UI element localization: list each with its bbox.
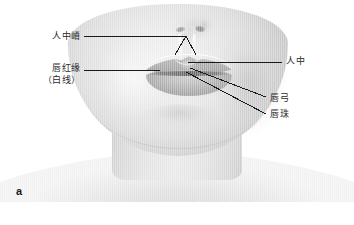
label-cupids-bow: 唇弓 — [270, 92, 330, 104]
panel-letter: a — [16, 185, 22, 197]
label-tubercle: 唇珠 — [270, 108, 330, 120]
label-vermilion-border-line1: 唇红缘 — [27, 62, 81, 74]
label-philtral-ridge: 人中嵴 — [33, 30, 81, 42]
anatomy-figure: 人中嵴 唇红缘 （白线） 人中 唇弓 唇珠 a — [0, 0, 354, 225]
label-vermilion-border: 唇红缘 （白线） — [27, 62, 81, 86]
label-philtrum: 人中 — [286, 55, 346, 67]
lip-tubercle — [180, 60, 194, 70]
label-vermilion-border-line2: （白线） — [27, 74, 81, 86]
